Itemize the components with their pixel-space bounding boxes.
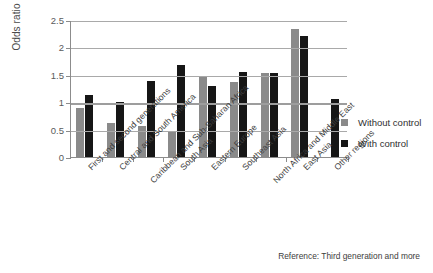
bar — [239, 72, 247, 157]
bar — [261, 73, 269, 157]
x-axis-tick — [194, 157, 195, 162]
y-axis-tick — [66, 158, 71, 159]
y-axis-tick — [66, 48, 71, 49]
y-axis-label: 0.5 — [22, 125, 64, 136]
legend-swatch-icon-without-control — [341, 119, 348, 126]
bar — [147, 81, 155, 157]
bar — [300, 36, 308, 157]
gridline — [71, 103, 347, 105]
bar — [199, 76, 207, 157]
gridline — [71, 21, 347, 22]
bar — [116, 102, 124, 157]
legend: Without control With control — [341, 112, 421, 154]
y-axis-label: 1 — [22, 97, 64, 108]
gridline — [71, 76, 347, 77]
legend-swatch-icon-with-control — [341, 140, 348, 147]
y-axis-tick — [66, 131, 71, 132]
y-axis-tick — [66, 21, 71, 22]
bar-group — [256, 21, 287, 157]
bar-group — [225, 21, 256, 157]
legend-item-with-control: With control — [341, 133, 421, 154]
bar — [168, 132, 176, 157]
y-axis-label: 1.5 — [22, 70, 64, 81]
y-axis-label: 2.5 — [22, 15, 64, 26]
bar — [76, 108, 84, 157]
x-axis-tick — [286, 157, 287, 162]
x-axis-tick — [348, 157, 349, 162]
plot-area — [70, 21, 347, 158]
y-axis-tick — [66, 76, 71, 77]
reference-note: Reference: Third generation and more — [278, 251, 420, 261]
gridline — [71, 48, 347, 49]
gridline — [71, 131, 347, 132]
x-axis-tick — [133, 157, 134, 162]
y-axis-label: 0 — [22, 152, 64, 163]
bar — [270, 73, 278, 157]
bar-group — [194, 21, 225, 157]
bar-group — [102, 21, 133, 157]
bar-group — [163, 21, 194, 157]
bar-group — [133, 21, 164, 157]
bar — [107, 123, 115, 157]
x-axis-tick — [317, 157, 318, 162]
legend-label-without-control: Without control — [358, 117, 421, 128]
bar-group — [71, 21, 102, 157]
x-axis-tick — [163, 157, 164, 162]
bar — [331, 99, 339, 157]
legend-item-without-control: Without control — [341, 112, 421, 133]
bar — [230, 82, 238, 157]
x-axis-tick — [102, 157, 103, 162]
y-axis-label: 2 — [22, 42, 64, 53]
y-axis-tick — [66, 103, 71, 104]
x-axis-tick — [256, 157, 257, 162]
x-axis-tick — [225, 157, 226, 162]
bar-group — [286, 21, 317, 157]
legend-label-with-control: With control — [358, 138, 408, 149]
bar — [208, 86, 216, 157]
bar — [177, 65, 185, 157]
y-axis-title: Odds ratio — [11, 0, 22, 72]
bar-groups — [71, 21, 347, 157]
odds-ratio-bar-chart: Odds ratio 00.511.522.5 First and second… — [0, 0, 433, 273]
